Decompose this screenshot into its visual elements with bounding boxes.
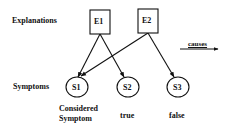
- s3-label: S3: [173, 83, 181, 92]
- s1-label: S1: [72, 83, 80, 92]
- s1-annotation-line1: Considered: [59, 104, 98, 113]
- s3-annotation: false: [169, 111, 185, 120]
- edge-e2-s1: [81, 33, 148, 76]
- edge-e2-s3: [148, 33, 174, 77]
- causes-legend-label: causes: [188, 40, 207, 49]
- s2-label: S2: [123, 83, 131, 92]
- symptoms-row-label: Symptoms: [13, 82, 49, 91]
- e2-label: E2: [142, 16, 151, 25]
- s1-annotation-line2: Symptom: [59, 114, 92, 123]
- s2-annotation: true: [120, 111, 134, 120]
- explanations-row-label: Explanations: [12, 16, 57, 25]
- edges: [78, 33, 174, 77]
- e1-label: E1: [94, 17, 103, 26]
- causal-diagram: Explanations Symptoms E1 E2 S1 S2 S3 Con…: [0, 0, 235, 131]
